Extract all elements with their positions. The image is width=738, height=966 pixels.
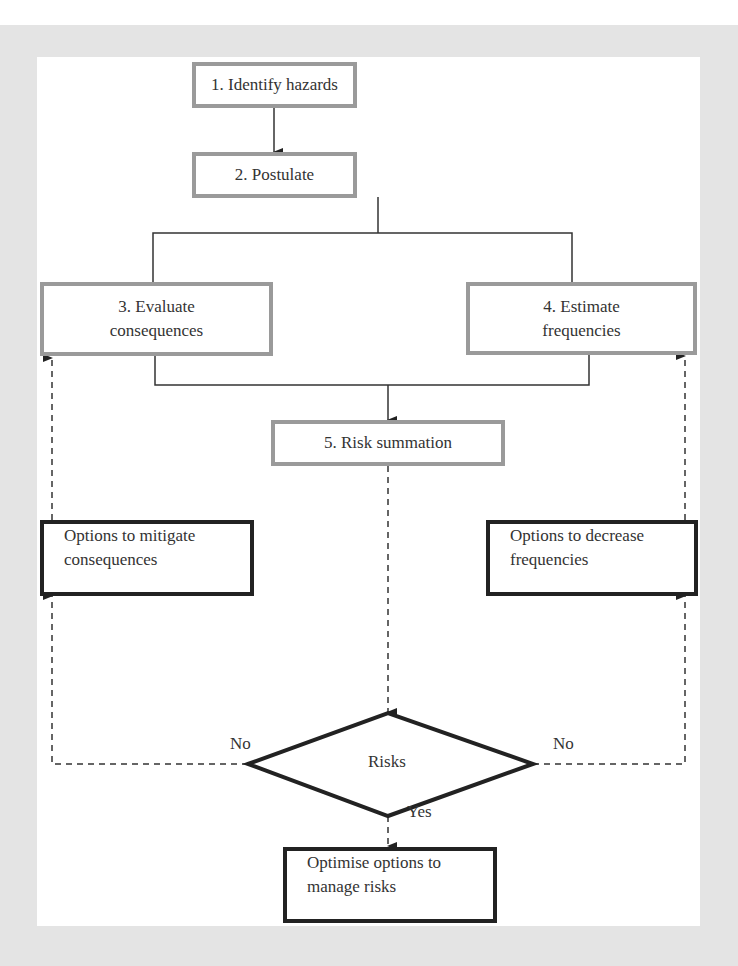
options-decrease-frequencies: Options to decrease frequencies — [486, 520, 698, 596]
step-label-line1: 3. Evaluate — [118, 295, 194, 319]
option-label-line2: consequences — [64, 548, 157, 572]
step-identify-hazards: 1. Identify hazards — [192, 62, 357, 108]
step-label-line2: frequencies — [542, 319, 620, 343]
step-label-line1: 4. Estimate — [543, 295, 619, 319]
step-risk-summation: 5. Risk summation — [271, 420, 505, 466]
option-label-line2: manage risks — [307, 875, 396, 899]
decision-label: Risks — [368, 752, 406, 772]
step-label: 1. Identify hazards — [211, 73, 338, 97]
yes-label: Yes — [407, 802, 432, 822]
no-left-label: No — [230, 734, 251, 754]
step-label-line2: consequences — [110, 319, 203, 343]
step-estimate-frequencies: 4. Estimate frequencies — [466, 282, 697, 355]
options-mitigate-consequences: Options to mitigate consequences — [40, 520, 254, 596]
option-label-line1: Options to decrease — [510, 524, 644, 548]
step-label: 2. Postulate — [235, 163, 314, 187]
step-label: 5. Risk summation — [324, 431, 452, 455]
no-right-label: No — [553, 734, 574, 754]
option-label-line1: Options to mitigate — [64, 524, 195, 548]
optimise-options-box: Optimise options to manage risks — [283, 847, 497, 923]
step-postulate: 2. Postulate — [192, 152, 357, 198]
step-evaluate-consequences: 3. Evaluate consequences — [40, 282, 273, 356]
option-label-line2: frequencies — [510, 548, 588, 572]
option-label-line1: Optimise options to — [307, 851, 441, 875]
connector-lines — [0, 0, 738, 966]
